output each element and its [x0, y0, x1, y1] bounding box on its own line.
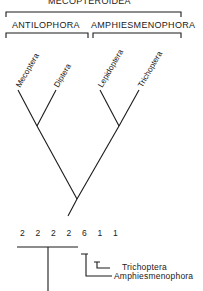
- character-state-numbers: 2 2 2 2 6 1 1: [20, 228, 122, 238]
- branch-trichoptera: [119, 90, 139, 126]
- branch-mecoptera: [18, 90, 37, 126]
- bracket-mecopteroidea: [6, 12, 181, 17]
- branch-root: [68, 199, 77, 216]
- branch-lepidoptera: [100, 90, 119, 126]
- branch-diptera: [37, 90, 56, 126]
- bracket-amphiesmenophora: [93, 33, 181, 38]
- branch-amphiesmenophora-stem: [77, 126, 119, 199]
- cladogram-lines: [0, 0, 203, 291]
- branch-antilophora-stem: [37, 126, 77, 199]
- lower-trichoptera-bracket: [94, 262, 110, 268]
- lower-label-amphiesmenophora: Amphiesmenophora: [114, 271, 193, 281]
- bracket-antilophora: [6, 33, 88, 38]
